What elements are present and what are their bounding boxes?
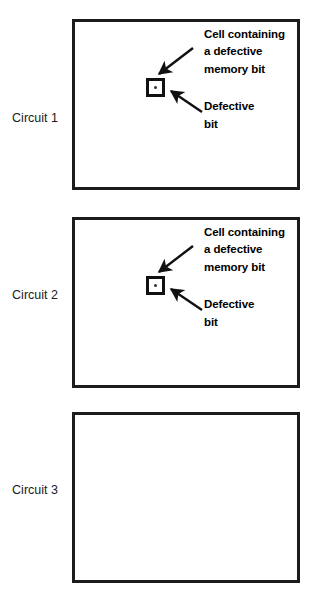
circuit-label-1: Circuit 1 [0,111,70,125]
circuit-row-2: Circuit 2 [0,217,311,388]
circuit-label-2: Circuit 2 [0,288,70,302]
arrow-to-bit-1 [171,91,202,112]
callout-arrows-2 [75,220,297,385]
cell-callout-line3-1: memory bit [204,61,265,78]
circuit-panel-1: Cell containing a defective memory bit D… [72,19,300,190]
circuit-panel-1-inner: Cell containing a defective memory bit D… [75,22,297,187]
circuit-panel-3 [72,412,300,583]
bit-callout-line2-1: bit [204,116,218,133]
cell-callout-line2-2: a defective [204,241,262,258]
circuit-label-3: Circuit 3 [0,483,70,497]
arrow-to-bit-2 [171,289,202,310]
circuit-row-1: Circuit 1 [0,19,311,190]
circuit-panel-2-inner: Cell containing a defective memory bit D… [75,220,297,385]
bit-callout-line2-2: bit [204,314,218,331]
bit-callout-line1-1: Defective [204,98,254,115]
cell-callout-line3-2: memory bit [204,259,265,276]
cell-callout-line2-1: a defective [204,43,262,60]
circuit-defect-figure: Circuit 1 [0,0,311,598]
arrow-to-cell-2 [159,246,193,272]
circuit-panel-3-inner [75,415,297,580]
circuit-panel-2: Cell containing a defective memory bit D… [72,217,300,388]
callout-arrows-1 [75,22,297,187]
cell-callout-line1-1: Cell containing [204,26,285,43]
cell-callout-line1-2: Cell containing [204,224,285,241]
bit-callout-line1-2: Defective [204,296,254,313]
arrow-to-cell-1 [159,48,193,74]
circuit-row-3: Circuit 3 [0,412,311,583]
